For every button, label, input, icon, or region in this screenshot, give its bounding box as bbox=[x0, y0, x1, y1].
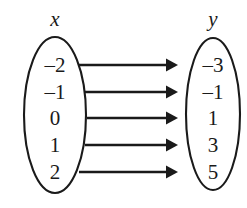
mapping-arrow bbox=[79, 59, 178, 72]
domain-element: 2 bbox=[50, 160, 61, 184]
range-element: 5 bbox=[208, 160, 219, 184]
range-element: –1 bbox=[202, 80, 224, 104]
mapping-diagram: x y –2 –1 0 1 2 –3 –1 1 3 5 bbox=[0, 0, 247, 208]
mapping-arrow bbox=[85, 86, 178, 99]
range-element: 3 bbox=[208, 133, 219, 157]
domain-element: 0 bbox=[50, 106, 61, 130]
domain-element: 1 bbox=[50, 133, 61, 157]
range-element: 1 bbox=[208, 106, 219, 130]
mapping-arrow bbox=[87, 112, 178, 125]
domain-set-label: x bbox=[49, 7, 60, 31]
domain-element: –2 bbox=[44, 53, 66, 77]
range-set-label: y bbox=[206, 7, 218, 31]
mapping-arrow bbox=[85, 139, 178, 152]
range-element: –3 bbox=[202, 53, 224, 77]
mapping-arrow bbox=[79, 166, 178, 179]
domain-element: –1 bbox=[44, 80, 66, 104]
mapping-diagram-canvas: x y –2 –1 0 1 2 –3 –1 1 3 5 bbox=[0, 0, 247, 208]
